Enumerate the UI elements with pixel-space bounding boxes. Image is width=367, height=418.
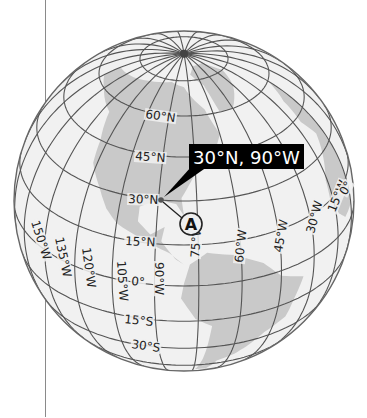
latitude-label: 45°N bbox=[135, 149, 166, 165]
globe-map: 60°N45°N30°N15°N0°15°S30°S150°W135°W120°… bbox=[0, 0, 367, 418]
longitude-label: 90°W bbox=[152, 262, 166, 295]
longitude-label: 105°W bbox=[114, 260, 131, 302]
north-pole-point bbox=[180, 50, 188, 58]
latitude-label: 0° bbox=[131, 274, 146, 289]
marker-a: A bbox=[180, 213, 202, 235]
marker-a-label: A bbox=[185, 215, 198, 234]
location-point bbox=[158, 197, 164, 203]
latitude-label: 15°N bbox=[125, 234, 156, 250]
latitude-label: 30°N bbox=[128, 192, 159, 207]
callout-text: 30°N, 90°W bbox=[193, 147, 300, 168]
